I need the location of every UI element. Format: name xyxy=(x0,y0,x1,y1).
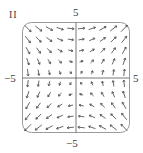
field-arrow xyxy=(25,36,30,43)
field-arrow xyxy=(35,125,42,130)
field-arrow xyxy=(36,37,41,42)
field-arrow xyxy=(25,113,30,120)
vector-field-plot xyxy=(0,0,143,153)
field-arrow xyxy=(111,37,116,42)
field-arrow xyxy=(110,26,117,31)
field-arrow xyxy=(36,114,41,119)
field-arrow xyxy=(122,113,127,120)
field-arrow xyxy=(122,36,127,43)
field-arrow xyxy=(110,125,117,130)
field-arrow xyxy=(25,25,31,31)
field-arrow xyxy=(25,124,31,130)
field-arrow xyxy=(35,26,42,31)
field-arrow xyxy=(121,124,127,130)
field-arrow xyxy=(111,114,116,119)
field-arrow xyxy=(121,25,127,31)
